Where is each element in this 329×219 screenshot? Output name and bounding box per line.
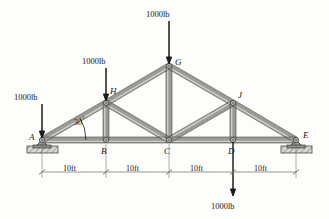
truss-member-HG [106,66,169,103]
angle-value: 30 [74,118,82,127]
load-label-G: 1000lb [146,10,170,19]
load-label-H: 1000lb [82,57,106,66]
truss-diagram-figure: A B C D E H G J 1000lb 1000lb 1000lb 100… [0,0,329,219]
truss-member-JE [233,103,296,140]
dimension-label-BC: 10ft [126,165,139,173]
dimension-label-DE: 10ft [254,165,267,173]
truss-member-JC [169,103,233,140]
truss-member-GJ [169,66,233,103]
truss-member-HC [106,103,169,140]
joint-label-A: A [29,133,35,142]
load-label-D: 1000lb [211,202,235,211]
load-label-A: 1000lb [14,93,38,102]
joint-label-D: D [228,147,235,156]
dimension-label-AB: 10ft [63,165,76,173]
joint-label-B: B [101,147,107,156]
truss-members [42,66,296,141]
joint-label-C: C [164,147,170,156]
joint-label-J: J [238,91,242,100]
joint-label-H: H [110,87,117,96]
load-arrow-head-D [230,189,235,196]
load-arrow-head-G [166,57,171,64]
truss-drawing [0,0,329,219]
angle-label-30deg: 30° [74,116,84,127]
joint-label-E: E [303,131,309,140]
dimension-label-CD: 10ft [190,165,203,173]
joint-label-G: G [175,58,182,67]
angle-unit: ° [82,116,84,122]
